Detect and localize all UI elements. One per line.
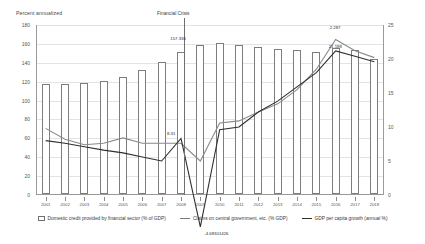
legend-item-claims[interactable]: Claims on central government, etc. (% GD…	[180, 216, 288, 221]
chart-legend: Domestic credit provided by financial se…	[0, 216, 425, 221]
line-path	[46, 51, 375, 227]
data-label: -4.68301426	[204, 231, 228, 236]
x-axis-tick	[355, 197, 356, 201]
y-axis-right-tick-label: 0	[388, 192, 414, 198]
legend-swatch-box-icon	[38, 216, 45, 221]
x-axis-tick	[297, 197, 298, 201]
y-axis-left-tick-label: 0	[4, 192, 30, 198]
y-axis-right-tick-label: 15	[388, 90, 414, 96]
line-series	[36, 25, 384, 195]
legend-item-gdp-growth[interactable]: GDP per capita growth (annual %)	[302, 216, 388, 221]
x-axis-tick	[142, 197, 143, 201]
x-axis-label: 2018	[361, 202, 387, 207]
y-axis-left-tick-label: 160	[4, 41, 30, 47]
y-axis-left-tick-label: 120	[4, 79, 30, 85]
data-label: 21.188	[329, 44, 342, 49]
x-axis-tick	[162, 197, 163, 201]
y-axis-left-tick-label: 100	[4, 98, 30, 104]
legend-swatch-line-dark-icon	[302, 218, 312, 219]
y-axis-left-tick-label: 80	[4, 116, 30, 122]
financial-crisis-label: Financial Crisis	[157, 11, 190, 16]
x-axis-tick	[65, 197, 66, 201]
line-path	[46, 39, 375, 161]
y-axis-left-tick-label: 180	[4, 22, 30, 28]
y-axis-right-tick-label: 20	[388, 56, 414, 62]
legend-item-domestic-credit[interactable]: Domestic credit provided by financial se…	[38, 216, 166, 221]
y-axis-right-tick-label: 25	[388, 22, 414, 28]
x-axis-tick	[316, 197, 317, 201]
data-label: 8.31	[167, 131, 175, 136]
chart-container: Percent annualized 180160140120100806040…	[0, 0, 425, 244]
x-axis-tick	[123, 197, 124, 201]
y-axis-left-tick-label: 140	[4, 60, 30, 66]
financial-crisis-marker	[184, 18, 185, 195]
y-axis-title: Percent annualized	[16, 10, 62, 16]
x-axis-tick	[336, 197, 337, 201]
x-axis-tick	[374, 197, 375, 201]
x-axis-tick	[84, 197, 85, 201]
plot-area: Financial Crisis157.3368.31-4.683014262.…	[36, 25, 384, 195]
y-axis-left-tick-label: 60	[4, 135, 30, 141]
data-label: 2.287	[330, 25, 341, 30]
x-axis-tick	[46, 197, 47, 201]
x-axis-tick	[278, 197, 279, 201]
x-axis-tick	[200, 197, 201, 201]
x-axis-tick	[220, 197, 221, 201]
x-axis-tick	[258, 197, 259, 201]
legend-swatch-line-icon	[180, 218, 190, 219]
x-axis-tick	[181, 197, 182, 201]
y-axis-right-tick-label: 10	[388, 124, 414, 130]
data-label: 157.336	[170, 36, 186, 41]
legend-label: Domestic credit provided by financial se…	[48, 216, 166, 221]
legend-label: GDP per capita growth (annual %)	[315, 216, 388, 221]
y-axis-right-tick-label: 5	[388, 158, 414, 164]
y-axis-left-tick-label: 20	[4, 173, 30, 179]
x-axis-tick	[104, 197, 105, 201]
x-axis-tick	[239, 197, 240, 201]
y-axis-left-tick-label: 40	[4, 154, 30, 160]
legend-label: Claims on central government, etc. (% GD…	[193, 216, 288, 221]
